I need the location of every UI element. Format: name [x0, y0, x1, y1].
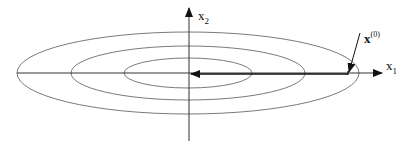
- x2-label-sub: 2: [205, 16, 210, 26]
- x1-label-sub: 1: [393, 66, 398, 76]
- x1-axis-label: x1: [386, 59, 397, 72]
- x2-axis-label: x2: [198, 9, 209, 22]
- start-point-label-main: x: [364, 31, 371, 46]
- start-point-label-sup: (0): [371, 30, 380, 39]
- x1-label-main: x: [386, 58, 393, 73]
- x2-label-main: x: [198, 8, 205, 23]
- start-point-label: x(0): [364, 32, 380, 45]
- start-point-pointer: [349, 33, 360, 72]
